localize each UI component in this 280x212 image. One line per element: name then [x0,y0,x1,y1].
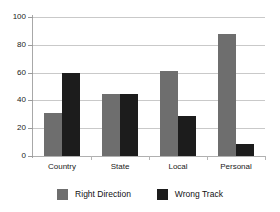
bar-local-right-direction[interactable] [160,71,178,156]
y-axis-tick-label: 40 [0,96,26,104]
bar-local-wrong-track[interactable] [178,116,196,156]
x-axis-tick [149,156,150,160]
x-axis-tick [265,156,266,160]
bar-state-wrong-track[interactable] [120,94,138,156]
x-axis-label-local: Local [149,162,207,171]
bar-personal-wrong-track[interactable] [236,144,254,157]
y-axis-tick-label: 20 [0,124,26,132]
legend-label: Right Direction [75,190,131,199]
chart-legend: Right Direction Wrong Track [0,186,280,202]
bar-personal-right-direction[interactable] [218,34,236,156]
bar-chart: 020406080100 CountryStateLocalPersonal R… [0,0,280,212]
legend-item-right-direction[interactable]: Right Direction [57,189,131,200]
plot-area [33,17,265,156]
legend-swatch-icon [157,189,168,200]
y-axis-tick [28,156,33,157]
y-axis-tick-label: 80 [0,41,26,49]
legend-label: Wrong Track [175,190,223,199]
legend-item-wrong-track[interactable]: Wrong Track [157,189,223,200]
bar-country-wrong-track[interactable] [62,73,80,156]
x-axis-tick [207,156,208,160]
x-axis-label-personal: Personal [207,162,265,171]
x-axis-label-state: State [91,162,149,171]
x-axis-tick [91,156,92,160]
legend-swatch-icon [57,189,68,200]
x-axis-label-country: Country [33,162,91,171]
bar-country-right-direction[interactable] [44,113,62,156]
bar-state-right-direction[interactable] [102,94,120,156]
y-axis-tick-label: 0 [0,152,26,160]
y-axis-tick-label: 100 [0,13,26,21]
y-axis-tick-label: 60 [0,69,26,77]
